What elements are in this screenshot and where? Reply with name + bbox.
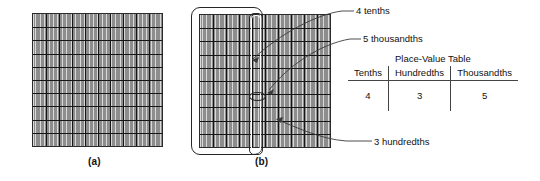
cell-tenths-value: 4 <box>348 81 389 112</box>
label-4-tenths: 4 tenths <box>356 5 390 16</box>
column-header-tenths: Tenths <box>348 66 389 81</box>
label-3-hundredths: 3 hundredths <box>374 136 429 147</box>
place-value-table-title: Place-Value Table <box>395 53 471 64</box>
cell-thousandths-value: 5 <box>451 81 518 112</box>
label-5-thousandths: 5 thousandths <box>363 33 423 44</box>
table-header-row: Tenths Hundredths Thousandths <box>348 66 518 81</box>
place-value-table: Tenths Hundredths Thousandths 4 3 5 <box>348 66 518 111</box>
table-row: 4 3 5 <box>348 81 518 112</box>
column-header-thousandths: Thousandths <box>451 66 518 81</box>
column-header-hundredths: Hundredths <box>389 66 451 81</box>
figure-stage: (a) (b) 4 tenths 5 thousandths 3 hundred… <box>0 0 540 181</box>
cell-hundredths-value: 3 <box>389 81 451 112</box>
